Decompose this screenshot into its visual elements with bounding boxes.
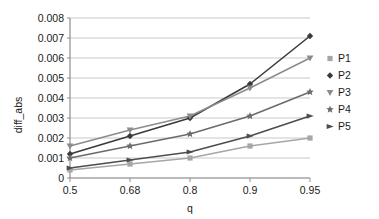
x-tick-label: 0.68 [120,184,141,196]
y-tick-label: 0.004 [38,92,64,104]
y-tick-label: 0 [58,172,64,184]
x-tick-label: 0.5 [63,184,78,196]
x-tick-label: 0.8 [183,184,198,196]
data-point-p1-2 [187,155,192,160]
y-tick-label: 0.007 [38,32,64,44]
y-tick-label: 0.006 [38,52,64,64]
legend-label-p2: P2 [338,69,351,81]
chart-container: 00.0010.0020.0030.0040.0050.0060.0070.00… [0,0,379,219]
legend-label-p4: P4 [338,103,351,115]
y-tick-label: 0.002 [38,132,64,144]
line-chart: 00.0010.0020.0030.0040.0050.0060.0070.00… [0,0,379,219]
y-tick-label: 0.003 [38,112,64,124]
x-tick-label: 0.9 [243,184,258,196]
y-tick-label: 0.001 [38,152,64,164]
y-axis-label: diff_abs [12,97,24,134]
data-point-p1-4 [307,135,312,140]
x-tick-label: 0.95 [300,184,321,196]
x-axis-label: q [187,202,193,214]
legend-marker-square-icon [327,56,332,61]
legend-label-p5: P5 [338,120,351,132]
y-tick-label: 0.005 [38,72,64,84]
y-tick-label: 0.008 [38,12,64,24]
legend-label-p1: P1 [338,52,351,64]
data-point-p1-3 [247,143,252,148]
legend-label-p3: P3 [338,86,351,98]
data-point-p1-1 [127,161,132,166]
